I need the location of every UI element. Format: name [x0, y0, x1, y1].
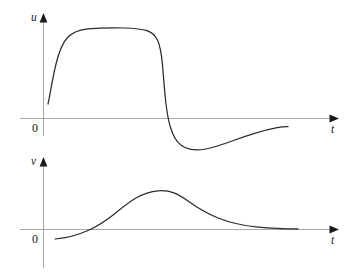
upper-y-axis-arrowhead — [40, 13, 48, 23]
lower-y-axis-arrowhead — [40, 157, 48, 167]
upper-x-axis-arrowhead — [330, 114, 340, 122]
lower-origin-label: 0 — [32, 232, 38, 246]
plot-lower: v t 0 — [20, 155, 339, 268]
figure-root: u t 0 v t 0 — [0, 0, 346, 277]
upper-y-axis-label: u — [31, 11, 37, 23]
lower-x-axis-label: t — [331, 234, 335, 246]
lower-y-axis-label: v — [31, 155, 37, 167]
lower-x-axis-arrowhead — [330, 225, 340, 233]
two-plot-figure: u t 0 v t 0 — [0, 0, 346, 277]
plot-upper: u t 0 — [20, 11, 339, 150]
upper-origin-label: 0 — [32, 121, 38, 135]
u-curve — [48, 28, 288, 150]
upper-x-axis-label: t — [331, 123, 335, 135]
v-curve — [55, 191, 298, 239]
